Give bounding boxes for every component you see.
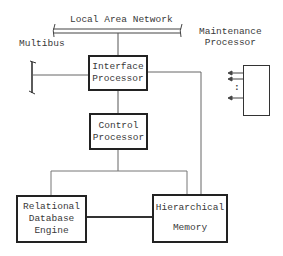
maintenance-ellipsis: :: [234, 82, 240, 93]
relational-database-engine-box: Relational Database Engine: [16, 195, 87, 243]
lan-label: Local Area Network: [70, 14, 173, 25]
maintenance-processor-label: Maintenance Processor: [199, 26, 262, 48]
multibus-bracket: [29, 61, 36, 94]
control-processor-box: Control Processor: [89, 113, 148, 150]
system-architecture-diagram: Local Area Network Multibus Maintenance …: [0, 0, 283, 256]
hierarchical-memory-box: Hierarchical Memory: [152, 194, 228, 243]
multibus-label: Multibus: [19, 38, 65, 49]
maintenance-processor-box: [243, 65, 270, 116]
interface-processor-box: Interface Processor: [88, 55, 148, 91]
